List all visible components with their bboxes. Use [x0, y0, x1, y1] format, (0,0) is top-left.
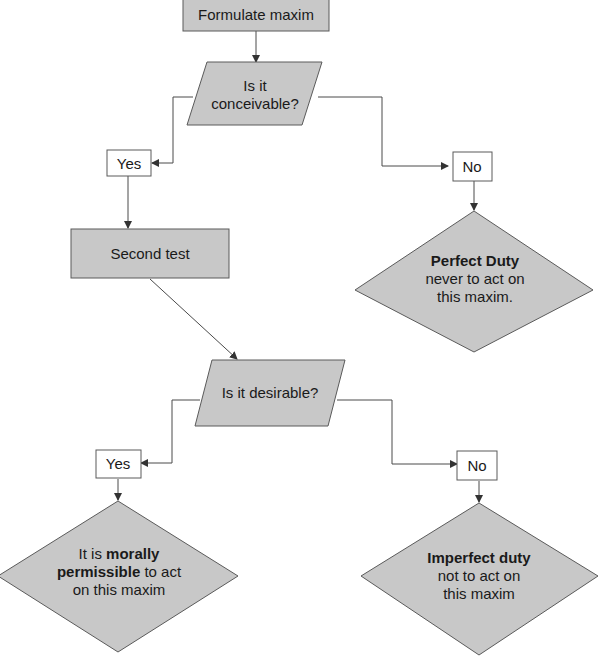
node-no-1: No [453, 152, 492, 181]
no-1-label: No [462, 158, 481, 175]
formulate-maxim-label: Formulate maxim [198, 6, 314, 23]
node-no-2: No [457, 451, 497, 480]
imperfect-duty-line1: not to act on [438, 567, 521, 584]
edge-q2-no [337, 400, 457, 464]
node-perfect-duty: Perfect Duty never to act on this maxim. [355, 211, 593, 352]
node-formulate-maxim: Formulate maxim [183, 0, 329, 31]
perfect-duty-title: Perfect Duty [431, 252, 520, 269]
permissible-line1: It is morally [79, 545, 161, 562]
node-second-test: Second test [71, 229, 229, 278]
conceivable-line2: conceivable? [211, 95, 299, 112]
node-is-desirable: Is it desirable? [195, 360, 345, 426]
second-test-label: Second test [110, 245, 190, 262]
edge-second-q2 [150, 279, 237, 359]
no-2-label: No [467, 457, 486, 474]
node-yes-2: Yes [96, 450, 141, 478]
edge-q1-yes [152, 97, 193, 163]
perfect-duty-line1: never to act on [425, 270, 524, 287]
node-yes-1: Yes [107, 150, 151, 176]
imperfect-duty-title: Imperfect duty [427, 549, 531, 566]
node-imperfect-duty: Imperfect duty not to act on this maxim [361, 503, 598, 655]
perfect-duty-line2: this maxim. [437, 288, 513, 305]
yes-2-label: Yes [106, 455, 130, 472]
yes-1-label: Yes [117, 155, 141, 172]
flowchart: Formulate maxim Is it conceivable? Yes N… [0, 0, 602, 660]
desirable-label: Is it desirable? [222, 384, 319, 401]
permissible-line3: on this maxim [73, 581, 166, 598]
edge-q1-no [318, 97, 448, 166]
edge-q2-yes [141, 400, 200, 463]
node-is-conceivable: Is it conceivable? [187, 62, 322, 125]
conceivable-line1: Is it [243, 77, 267, 94]
permissible-line2: permissible to act [57, 563, 182, 580]
imperfect-duty-line2: this maxim [443, 585, 515, 602]
node-morally-permissible: It is morally permissible to act on this… [0, 501, 238, 652]
